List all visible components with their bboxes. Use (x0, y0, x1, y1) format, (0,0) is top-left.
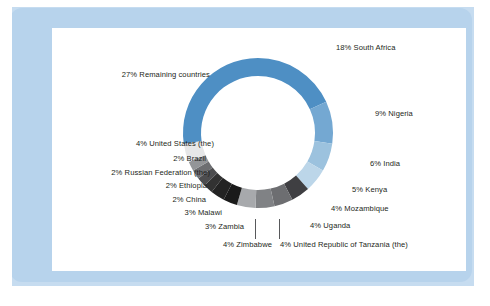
label-south-africa: 18% South Africa (336, 44, 395, 52)
label-china: 2% China (172, 196, 206, 204)
label-kenya: 5% Kenya (352, 186, 387, 194)
label-malawi: 3% Malawi (185, 209, 222, 217)
label-uganda: 4% Uganda (310, 222, 350, 230)
label-remaining-countries: 27% Remaining countries (122, 71, 210, 79)
donut-slice (310, 102, 333, 144)
label-mozambique: 4% Mozambique (331, 205, 389, 213)
label-russian-federation: 2% Russian Federation (the) (111, 169, 210, 177)
label-united-states: 4% United States (the) (136, 140, 214, 148)
label-zimbabwe: 4% Zimbabwe (223, 241, 272, 249)
donut-slice (258, 58, 326, 109)
label-ethiopia: 2% Ethiopia (166, 182, 207, 190)
label-india: 6% India (370, 160, 400, 168)
donut-svg (0, 0, 490, 306)
label-nigeria: 9% Nigeria (375, 110, 413, 118)
leader-line-tanzania (279, 219, 280, 239)
label-tanzania: 4% United Republic of Tanzania (the) (280, 241, 408, 249)
label-zambia: 3% Zambia (205, 223, 244, 231)
label-brazil: 2% Brazil (173, 155, 206, 163)
donut-chart: 18% South Africa 9% Nigeria 6% India 5% … (0, 0, 490, 306)
leader-line-zimbabwe (255, 219, 256, 239)
